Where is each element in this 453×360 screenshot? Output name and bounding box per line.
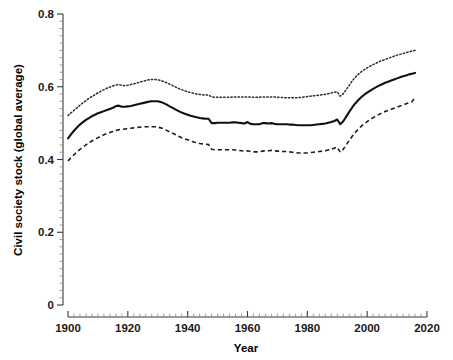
x-axis-tick-label: 2020 bbox=[414, 322, 440, 334]
series-line-mean bbox=[68, 73, 415, 138]
data-series-group bbox=[68, 50, 415, 161]
x-axis-tick-label: 2000 bbox=[354, 322, 380, 334]
x-axis-tick-label: 1980 bbox=[295, 322, 321, 334]
x-axis-tick-label: 1900 bbox=[55, 322, 81, 334]
y-axis-title: Civil society stock (global average) bbox=[12, 64, 24, 256]
y-axis-tick-label: 0 bbox=[48, 299, 54, 311]
y-axis-tick-label: 0.2 bbox=[38, 226, 54, 238]
y-axis: 00.20.40.60.8 bbox=[38, 8, 63, 311]
x-axis-title: Year bbox=[234, 342, 259, 354]
x-axis-tick-label: 1920 bbox=[115, 322, 141, 334]
y-axis-tick-label: 0.8 bbox=[38, 8, 55, 20]
line-chart-canvas: 00.20.40.60.8 19001920194019601980200020… bbox=[0, 0, 453, 360]
x-axis: 1900192019401960198020002020 bbox=[55, 311, 440, 334]
y-axis-tick-label: 0.6 bbox=[38, 81, 54, 93]
x-axis-tick-label: 1960 bbox=[235, 322, 261, 334]
y-axis-tick-label: 0.4 bbox=[38, 154, 55, 166]
chart-figure: 00.20.40.60.8 19001920194019601980200020… bbox=[0, 0, 453, 360]
x-axis-tick-label: 1940 bbox=[175, 322, 201, 334]
